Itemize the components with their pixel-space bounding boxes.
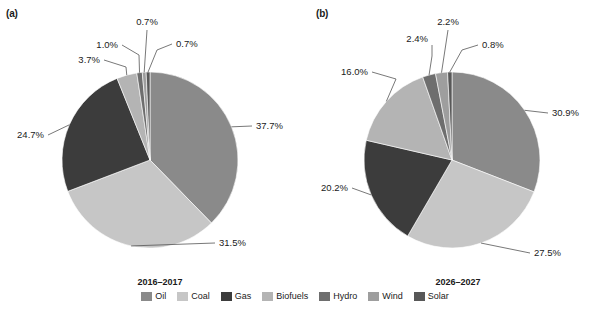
slice-label-gas: 24.7% (17, 129, 44, 140)
pie-chart-a: 37.7%31.5%24.7%3.7%1.0%0.7%0.7% (17, 16, 283, 248)
slice-label-biofuels: 16.0% (341, 66, 368, 77)
legend-item-coal: Coal (177, 291, 210, 301)
pie-chart-b: 30.9%27.5%20.2%16.0%2.4%2.2%0.8% (321, 16, 579, 258)
leader-line-solar (450, 45, 478, 72)
leader-line-biofuels (104, 60, 127, 75)
legend-label: Gas (235, 291, 252, 301)
leader-line-coal (481, 243, 530, 253)
slice-label-coal: 27.5% (534, 247, 561, 258)
leader-line-solar (148, 44, 172, 72)
legend-label: Coal (191, 291, 210, 301)
pie-charts-svg: 37.7%31.5%24.7%3.7%1.0%0.7%0.7% 30.9%27.… (0, 0, 590, 317)
legend-swatch-coal (177, 292, 188, 301)
leader-line-hydro (429, 45, 432, 75)
leader-line-hydro (122, 45, 140, 73)
legend-label: Biofuels (276, 291, 308, 301)
leader-line-gas (352, 188, 371, 195)
legend-item-oil: Oil (141, 291, 166, 301)
legend-item-biofuels: Biofuels (262, 291, 308, 301)
slice-label-hydro: 1.0% (96, 39, 118, 50)
slice-label-biofuels: 3.7% (78, 54, 100, 65)
legend-label: Wind (382, 291, 403, 301)
legend-item-gas: Gas (221, 291, 252, 301)
legend-label: Hydro (333, 291, 357, 301)
legend-item-hydro: Hydro (319, 291, 357, 301)
slice-label-coal: 31.5% (219, 237, 246, 248)
leader-line-wind (442, 30, 448, 73)
legend-label: Oil (155, 291, 166, 301)
figure-container: (a) (b) 37.7%31.5%24.7%3.7%1.0%0.7%0.7% … (0, 0, 590, 317)
slice-label-gas: 20.2% (321, 182, 348, 193)
legend-swatch-oil (141, 292, 152, 301)
legend-item-solar: Solar (414, 291, 449, 301)
slice-label-oil: 37.7% (256, 120, 283, 131)
pie-caption-a: 2016–2017 (100, 277, 220, 287)
slice-label-solar: 0.8% (482, 39, 504, 50)
pie-caption-b: 2026–2027 (398, 277, 518, 287)
legend-label: Solar (428, 291, 449, 301)
chart-legend: OilCoalGasBiofuelsHydroWindSolar (0, 291, 590, 301)
slice-label-wind: 2.2% (437, 16, 459, 27)
slice-label-oil: 30.9% (552, 107, 579, 118)
slice-label-solar: 0.7% (176, 38, 198, 49)
legend-swatch-gas (221, 292, 232, 301)
legend-swatch-hydro (319, 292, 330, 301)
leader-line-oil (525, 110, 548, 113)
slice-label-wind: 0.7% (136, 16, 158, 27)
legend-swatch-biofuels (262, 292, 273, 301)
legend-item-wind: Wind (368, 291, 403, 301)
legend-swatch-solar (414, 292, 425, 301)
slice-label-hydro: 2.4% (406, 33, 428, 44)
leader-line-wind (144, 30, 147, 72)
legend-swatch-wind (368, 292, 379, 301)
leader-line-oil (232, 126, 252, 127)
